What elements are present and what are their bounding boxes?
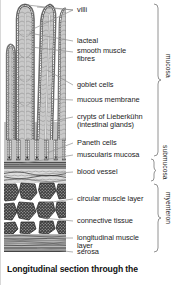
label-goblet-cells: goblet cells (77, 81, 113, 89)
label-lacteal: lacteal (77, 37, 98, 45)
villus-tall-right (37, 4, 57, 144)
region-label-mucosa: mucosa (165, 54, 172, 78)
muscularis-mucosa-band (4, 162, 66, 170)
region-label-myenteron: myenteron (165, 192, 172, 224)
caption-divider (1, 258, 178, 259)
longitudinal-muscle-zone (4, 234, 66, 247)
villus-edge-right (58, 8, 67, 144)
label-blood-vessel: blood vessel (77, 168, 118, 176)
label-intestinal-glands: (intestinal glands) (77, 121, 134, 129)
label-paneth-cells: Paneth cells (77, 139, 117, 147)
circular-muscle-zone (4, 183, 66, 234)
region-label-submucosa: submucosa (162, 145, 169, 180)
intestine-cross-section-figure: villi lacteal smooth muscle fibres goble… (0, 0, 178, 285)
villus-short-left (6, 44, 15, 144)
label-circular-muscle-layer: circular muscle layer (77, 195, 143, 203)
serosa-band (4, 247, 66, 252)
label-muscularis-mucosa: muscularis mucosa (77, 151, 139, 159)
label-mucous-membrane: mucous membrane (77, 96, 140, 104)
crypts-zone (4, 140, 66, 162)
label-smooth-muscle-fibres: fibres (77, 55, 95, 63)
submucosa-zone (4, 169, 66, 183)
label-serosa: serosa (77, 248, 99, 256)
villus-tall-arch (16, 4, 34, 144)
label-villi: villi (77, 6, 87, 14)
histology-drawing (4, 2, 66, 254)
figure-caption: Longitudinal section through the (7, 264, 178, 275)
label-connective-tissue: connective tissue (77, 217, 133, 225)
